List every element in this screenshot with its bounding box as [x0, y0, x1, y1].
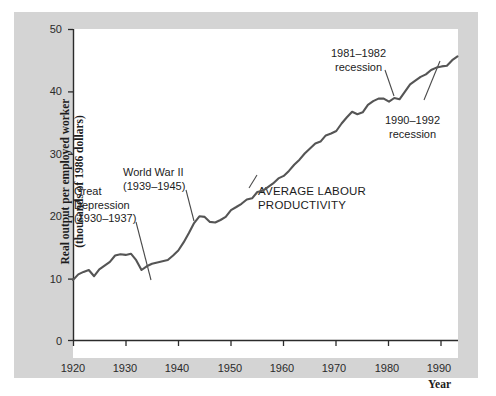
x-tick-marks: [74, 341, 442, 346]
chart-svg: [0, 0, 496, 396]
leader-great-depression: [136, 222, 151, 280]
y-tick-marks: [68, 30, 73, 341]
leader-recession-1981: [385, 70, 394, 96]
data-line-average-labour-productivity: [73, 56, 458, 280]
axis-group: [68, 29, 458, 346]
figure-root: Real output per employed worker (thousan…: [0, 0, 496, 396]
leader-series-label: [249, 175, 257, 188]
leader-world-war-two: [186, 190, 194, 221]
